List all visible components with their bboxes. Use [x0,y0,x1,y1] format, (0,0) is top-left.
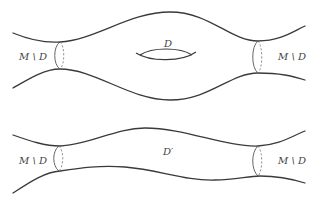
top-right-neck-front [253,41,258,73]
top-right-neck-back [258,41,262,73]
bottom-tube [13,128,305,193]
disk-d-lower-arc [136,52,196,60]
bottom-left-neck-front [54,146,59,171]
bottom-right-neck-front [253,146,258,176]
label-top-left-region: M \ D [19,52,47,62]
label-top-right-region: M \ D [278,52,306,62]
label-bottom-left-region: M \ D [19,156,47,166]
label-disk-d-prime: D′ [163,147,173,157]
top-tube-upper-boundary [13,12,305,42]
top-left-neck-front [55,42,60,69]
bottom-tube-lower-boundary [13,166,305,193]
top-left-neck-back [60,42,64,69]
bottom-right-neck-back [258,146,262,176]
label-bottom-right-region: M \ D [278,156,306,166]
top-tube-lower-boundary [13,69,305,100]
bottom-left-neck-back [59,146,63,171]
top-tube [13,12,305,100]
bottom-tube-upper-boundary [13,128,305,146]
label-disk-d: D [164,39,172,49]
diagram-canvas [0,0,316,202]
disk-d-upper-arc [140,49,192,55]
surface-diagram: M \ D M \ D D M \ D M \ D D′ [0,0,316,202]
